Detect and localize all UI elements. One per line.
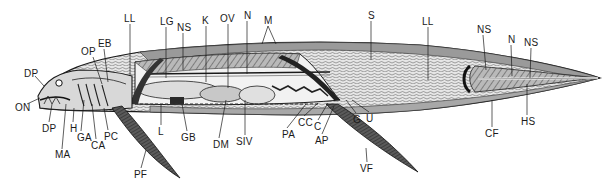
label-NS-mid: NS bbox=[477, 25, 491, 35]
label-U: U bbox=[366, 114, 373, 124]
label-LG: LG bbox=[160, 17, 174, 27]
label-ON: ON bbox=[15, 103, 30, 113]
label-CF: CF bbox=[485, 129, 499, 139]
label-M: M bbox=[264, 16, 273, 26]
label-PA: PA bbox=[282, 130, 295, 140]
label-L: L bbox=[158, 127, 164, 137]
label-SIV: SIV bbox=[236, 137, 253, 147]
label-DM: DM bbox=[213, 140, 229, 150]
label-EB: EB bbox=[98, 39, 112, 49]
label-MA: MA bbox=[55, 150, 70, 160]
label-AP: AP bbox=[315, 136, 329, 146]
label-CC: CC bbox=[298, 118, 313, 128]
label-HS: HS bbox=[521, 117, 535, 127]
label-LL-rear: LL bbox=[422, 17, 434, 27]
label-VF: VF bbox=[360, 164, 373, 174]
label-PC: PC bbox=[104, 132, 118, 142]
label-N-front: N bbox=[244, 11, 251, 21]
label-S: S bbox=[368, 11, 375, 21]
label-GB: GB bbox=[181, 133, 196, 143]
label-DP-top: DP bbox=[24, 69, 38, 79]
label-NS-front: NS bbox=[177, 23, 191, 33]
label-LL-front: LL bbox=[124, 14, 136, 24]
label-GA: GA bbox=[77, 133, 92, 143]
label-CA: CA bbox=[91, 141, 105, 151]
fish-illustration bbox=[0, 0, 613, 187]
label-DP-bottom: DP bbox=[42, 124, 56, 134]
label-C: C bbox=[314, 122, 321, 132]
label-G: G bbox=[353, 115, 361, 125]
label-N-rear: N bbox=[508, 35, 515, 45]
label-K: K bbox=[202, 16, 209, 26]
label-OV: OV bbox=[220, 14, 235, 24]
label-OP: OP bbox=[81, 47, 96, 57]
pectoral-fin bbox=[112, 106, 180, 178]
label-NS-rear: NS bbox=[524, 38, 538, 48]
fish-anatomy-diagram: DP ON DP MA H GA CA PC OP EB LL LG NS K … bbox=[0, 0, 613, 187]
label-PF: PF bbox=[134, 170, 147, 180]
